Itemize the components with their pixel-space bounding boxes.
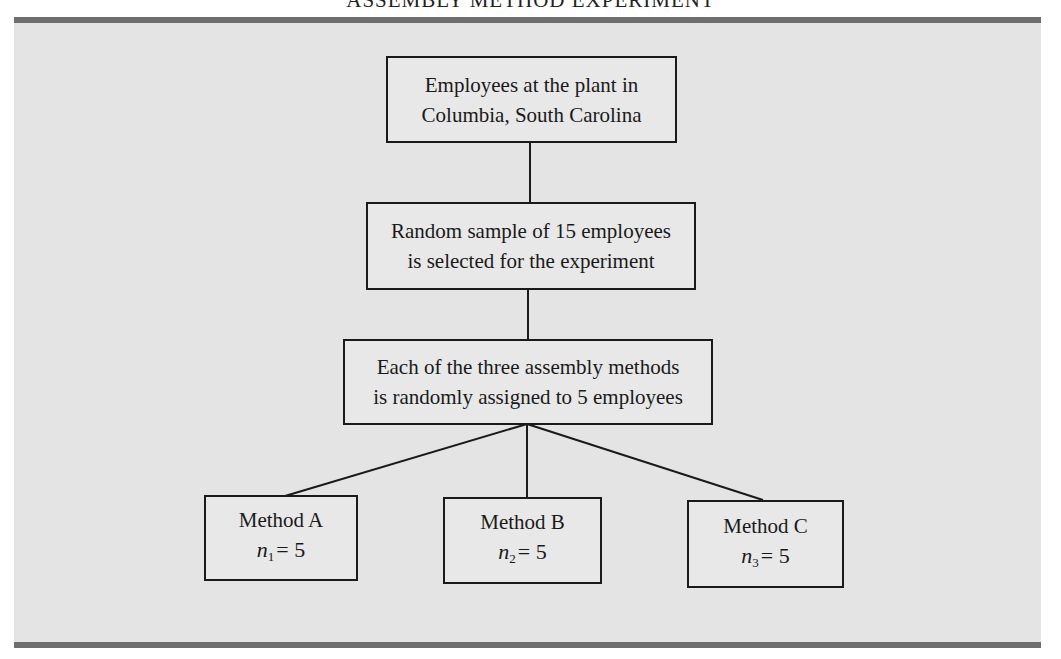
- diagram-figure: ASSEMBLY METHOD EXPERIMENT Employees at …: [0, 0, 1061, 659]
- n-value: = 5: [276, 537, 305, 562]
- figure-title: ASSEMBLY METHOD EXPERIMENT: [0, 0, 1061, 13]
- sample-line-2: is selected for the experiment: [407, 246, 654, 276]
- assignment-line-1: Each of the three assembly methods: [377, 352, 680, 382]
- method-b-box: Method B n2= 5: [443, 497, 602, 584]
- method-b-sample-size: n2= 5: [498, 537, 546, 574]
- n-value: = 5: [518, 539, 547, 564]
- n-symbol: n: [741, 543, 752, 568]
- sample-line-1: Random sample of 15 employees: [391, 216, 671, 246]
- method-c-label: Method C: [723, 511, 808, 541]
- n-subscript: 1: [268, 549, 275, 564]
- n-symbol: n: [257, 537, 268, 562]
- n-value: = 5: [761, 543, 790, 568]
- assignment-line-2: is randomly assigned to 5 employees: [373, 382, 683, 412]
- method-c-box: Method C n3= 5: [687, 500, 844, 588]
- method-a-label: Method A: [239, 505, 324, 535]
- sample-box: Random sample of 15 employees is selecte…: [366, 202, 696, 290]
- method-a-box: Method A n1= 5: [204, 495, 358, 581]
- method-a-sample-size: n1= 5: [257, 535, 305, 572]
- population-line-2: Columbia, South Carolina: [422, 100, 642, 130]
- n-symbol: n: [498, 539, 509, 564]
- n-subscript: 3: [752, 555, 759, 570]
- n-subscript: 2: [509, 551, 516, 566]
- population-box: Employees at the plant in Columbia, Sout…: [386, 56, 677, 143]
- method-b-label: Method B: [480, 507, 565, 537]
- top-rule: [14, 17, 1041, 23]
- assignment-box: Each of the three assembly methods is ra…: [343, 339, 713, 425]
- method-c-sample-size: n3= 5: [741, 541, 789, 578]
- population-line-1: Employees at the plant in: [425, 70, 638, 100]
- bottom-rule: [14, 642, 1041, 648]
